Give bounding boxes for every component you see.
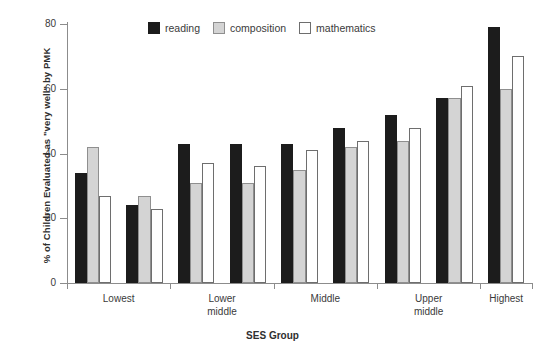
bar-reading-6 [333,128,345,283]
y-tick-mark [60,154,67,155]
bar-composition-1 [87,147,99,283]
x-tick-label-upper-middle: Uppermiddle [384,293,474,318]
bar-composition-7 [397,141,409,283]
bar-reading-2 [126,205,138,283]
bar-reading-4 [230,144,242,283]
bar-reading-5 [281,144,293,283]
y-tick-mark [60,89,67,90]
bar-composition-3 [190,183,202,283]
x-tick-mark [170,283,171,289]
bar-composition-5 [293,170,305,283]
x-tick-label-lowest: Lowest [74,293,164,306]
bar-composition-8 [448,98,460,283]
y-tick-mark [60,24,67,25]
bar-reading-7 [385,115,397,283]
bar-chart: % of Children Evaluated as "very well" b… [0,0,545,360]
bar-composition-9 [500,89,512,283]
x-tick-mark [480,283,481,289]
bar-reading-3 [178,144,190,283]
y-tick-mark [60,283,67,284]
bar-mathematics-6 [357,141,369,283]
bar-mathematics-8 [461,86,473,283]
legend-item-reading: reading [148,22,200,34]
plot-area [67,24,532,283]
legend-swatch-mathematics-icon [299,22,311,34]
x-tick-mark [274,283,275,289]
legend-swatch-reading-icon [148,22,160,34]
x-tick-mark [377,283,378,289]
x-axis-line [67,283,533,284]
chart-legend: readingcompositionmathematics [148,22,376,34]
bar-mathematics-4 [254,166,266,283]
legend-swatch-composition-icon [213,22,225,34]
bar-mathematics-9 [512,56,524,283]
y-tick-mark [60,218,67,219]
bar-mathematics-5 [306,150,318,283]
y-tick-label: 60 [26,83,56,94]
bar-mathematics-7 [409,128,421,283]
x-tick-mark [67,283,68,289]
legend-label: reading [165,22,200,34]
legend-label: mathematics [316,22,376,34]
y-tick-label: 80 [26,18,56,29]
bar-composition-6 [345,147,357,283]
bar-reading-1 [75,173,87,283]
bar-composition-4 [242,183,254,283]
y-tick-label: 40 [26,148,56,159]
x-tick-label-middle: Middle [280,293,370,306]
legend-label: composition [230,22,286,34]
bar-reading-9 [488,27,500,283]
x-tick-mark [532,283,533,289]
bar-mathematics-3 [202,163,214,283]
legend-item-composition: composition [213,22,286,34]
legend-item-mathematics: mathematics [299,22,376,34]
x-axis-title: SES Group [0,330,545,341]
x-tick-label-lower-middle: Lowermiddle [177,293,267,318]
bar-mathematics-1 [99,196,111,283]
bar-composition-2 [138,196,150,283]
y-tick-label: 0 [26,277,56,288]
bar-mathematics-2 [151,209,163,283]
x-tick-label-highest: Highest [461,293,545,306]
y-tick-label: 20 [26,212,56,223]
bar-reading-8 [436,98,448,283]
